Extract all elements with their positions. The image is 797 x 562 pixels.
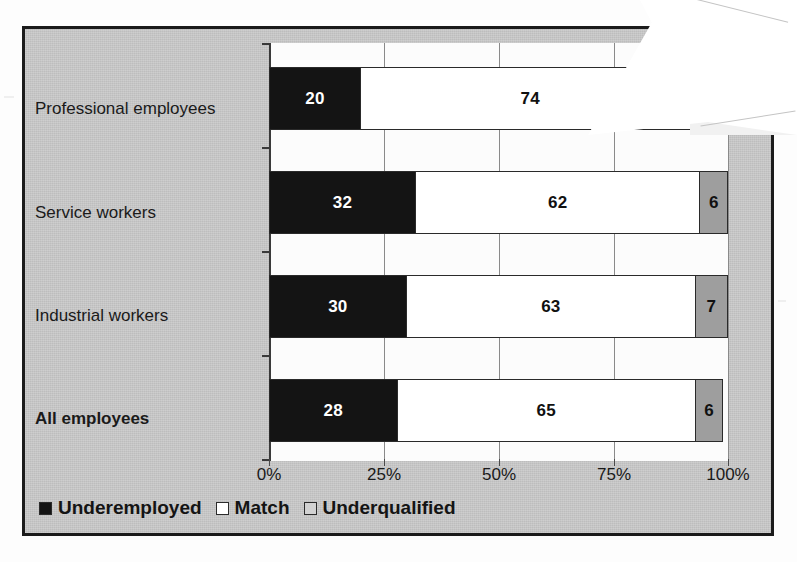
legend-item-underqualified[interactable]: Underqualified	[304, 497, 456, 519]
category-label-all-employees: All employees	[35, 409, 253, 429]
y-axis-tick	[262, 355, 269, 357]
scan-speck	[4, 96, 14, 98]
x-axis-label-75: 75%	[597, 465, 631, 485]
legend-label-underemployed: Underemployed	[58, 497, 202, 519]
chart-frame: Professional employees Service workers I…	[22, 26, 774, 536]
legend-label-match: Match	[235, 497, 290, 519]
plot-area: 20 74 32 62 6 30 63 7 28	[269, 43, 729, 461]
x-axis: 0% 25% 50% 75% 100%	[269, 465, 729, 495]
y-axis-tick	[262, 251, 269, 253]
y-axis-tick	[262, 43, 269, 45]
y-axis-tick	[262, 147, 269, 149]
category-label-service-workers: Service workers	[35, 203, 253, 223]
legend-swatch-icon	[304, 502, 317, 515]
bar-segment-underqualified[interactable]: 6	[700, 171, 728, 234]
x-axis-label-100: 100%	[706, 465, 749, 485]
bar-segment-match[interactable]: 74	[361, 67, 701, 130]
category-label-professional-employees: Professional employees	[35, 99, 253, 119]
bar-segment-underemployed[interactable]: 30	[269, 275, 407, 338]
bar-segment-match[interactable]: 65	[398, 379, 696, 442]
legend-item-underemployed[interactable]: Underemployed	[39, 497, 202, 519]
legend-swatch-icon	[216, 502, 229, 515]
bar-segment-underqualified[interactable]: 6	[696, 379, 724, 442]
bar-segment-underemployed[interactable]: 32	[269, 171, 416, 234]
bar-row-industrial-workers[interactable]: 30 63 7	[269, 275, 729, 338]
bar-row-all-employees[interactable]: 28 65 6	[269, 379, 729, 442]
scan-speck	[778, 300, 786, 302]
bar-segment-underemployed[interactable]: 28	[269, 379, 398, 442]
category-axis: Professional employees Service workers I…	[25, 43, 269, 461]
bar-segment-underqualified[interactable]: 7	[696, 275, 728, 338]
bar-row-service-workers[interactable]: 32 62 6	[269, 171, 729, 234]
page-curl-fold-line	[662, 0, 788, 23]
legend-swatch-icon	[39, 502, 52, 515]
legend-label-underqualified: Underqualified	[323, 497, 456, 519]
category-label-industrial-workers: Industrial workers	[35, 306, 253, 326]
page-canvas: Professional employees Service workers I…	[0, 0, 797, 562]
bar-segment-underqualified[interactable]	[700, 67, 728, 130]
legend-item-match[interactable]: Match	[216, 497, 290, 519]
bar-segment-match[interactable]: 62	[416, 171, 701, 234]
bar-segment-match[interactable]: 63	[407, 275, 696, 338]
x-axis-label-0: 0%	[257, 465, 282, 485]
x-axis-label-25: 25%	[367, 465, 401, 485]
bars-container: 20 74 32 62 6 30 63 7 28	[269, 43, 729, 461]
x-axis-label-50: 50%	[482, 465, 516, 485]
y-axis-tick	[262, 459, 269, 461]
chart-legend: Underemployed Match Underqualified	[39, 497, 456, 519]
bar-row-professional-employees[interactable]: 20 74	[269, 67, 729, 130]
bar-segment-underemployed[interactable]: 20	[269, 67, 361, 130]
